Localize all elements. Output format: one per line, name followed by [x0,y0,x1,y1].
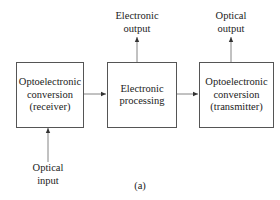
receiver-block: Optoelectronic conversion (receiver) [16,62,84,128]
electronic-output-line-1: Electronic [107,10,167,23]
receiver-line-3: (receiver) [19,101,81,114]
receiver-block-text: Optoelectronic conversion (receiver) [19,76,81,114]
optical-output-line-1: Optical [201,10,261,23]
receiver-line-1: Optoelectronic [19,76,81,89]
optical-input-label: Optical input [18,162,78,187]
optical-output-line-2: output [201,23,261,36]
processing-block-text: Electronic processing [120,83,165,108]
transmitter-line-2: conversion [205,89,267,102]
processing-line-2: processing [120,95,165,108]
processing-line-1: Electronic [120,83,165,96]
electronic-output-label: Electronic output [107,10,167,35]
optical-output-label: Optical output [201,10,261,35]
transmitter-line-3: (transmitter) [205,101,267,114]
electronic-output-line-2: output [107,23,167,36]
figure-caption: (a) [125,180,155,193]
receiver-line-2: conversion [19,89,81,102]
processing-block: Electronic processing [107,62,177,128]
transmitter-block-text: Optoelectronic conversion (transmitter) [205,76,267,114]
transmitter-block: Optoelectronic conversion (transmitter) [199,62,274,128]
optical-input-line-2: input [18,175,78,188]
optical-input-line-1: Optical [18,162,78,175]
transmitter-line-1: Optoelectronic [205,76,267,89]
